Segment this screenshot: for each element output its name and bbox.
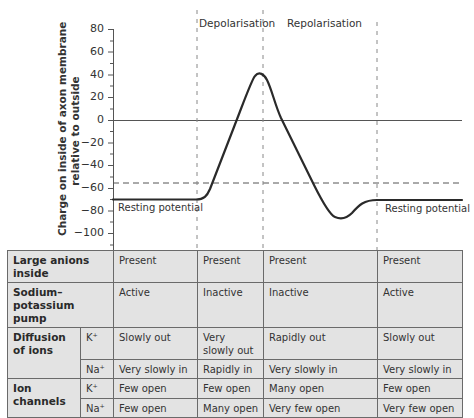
table-cell: Present <box>198 251 264 283</box>
ion-properties-table: Large anions inside Present Present Pres… <box>7 250 463 418</box>
table-cell: Slowly out <box>114 328 198 360</box>
ion-label-na: Na⁺ <box>81 360 114 379</box>
phase-label-depolarisation: Depolarisation <box>199 17 275 29</box>
table-cell: Very slowly in <box>264 360 378 379</box>
table-cell: Few open <box>114 379 198 399</box>
table-cell: Inactive <box>264 283 378 328</box>
table-cell: Very few open <box>378 399 463 418</box>
table-cell: Rapidly in <box>198 360 264 379</box>
table-cell: Very slowly in <box>114 360 198 379</box>
table-cell: Active <box>114 283 198 328</box>
table-cell: Very slowly in <box>378 360 463 379</box>
table-cell: Active <box>378 283 463 328</box>
resting-potential-label-left: Resting potential <box>118 202 203 213</box>
resting-potential-label-right: Resting potential <box>385 203 470 214</box>
table-cell: Few open <box>198 379 264 399</box>
row-label: Sodium–potassium pump <box>8 283 114 328</box>
y-axis-title-line-1: Charge on inside of axon membrane <box>56 26 69 236</box>
y-axis-title-line-2: relative to outside <box>69 26 82 236</box>
table-row-diffusion-k: Diffusion of ions K⁺ Slowly out Very slo… <box>8 328 463 360</box>
table-row-large-anions: Large anions inside Present Present Pres… <box>8 251 463 283</box>
row-label: Diffusion of ions <box>8 328 81 379</box>
table-row-ion-channels-k: Ion channels K⁺ Few open Few open Many o… <box>8 379 463 399</box>
phase-label-repolarisation: Repolarisation <box>287 17 362 29</box>
table-cell: Many open <box>264 379 378 399</box>
table-cell: Present <box>264 251 378 283</box>
table-cell: Very few open <box>264 399 378 418</box>
table-cell: Few open <box>114 399 198 418</box>
membrane-potential-curve <box>113 73 462 218</box>
table-cell: Very slowly out <box>198 328 264 360</box>
table-cell: Many open <box>198 399 264 418</box>
table-row-sodium-potassium-pump: Sodium–potassium pump Active Inactive In… <box>8 283 463 328</box>
table-cell: Present <box>114 251 198 283</box>
ion-label-k: K⁺ <box>81 328 114 360</box>
row-label: Ion channels <box>8 379 81 418</box>
table-cell: Present <box>378 251 463 283</box>
table-cell: Few open <box>378 379 463 399</box>
ion-label-k: K⁺ <box>81 379 114 399</box>
table-cell: Slowly out <box>378 328 463 360</box>
y-axis-title: Charge on inside of axon membrane relati… <box>56 26 82 236</box>
table-cell: Inactive <box>198 283 264 328</box>
ion-label-na: Na⁺ <box>81 399 114 418</box>
table-cell: Rapidly out <box>264 328 378 360</box>
row-label: Large anions inside <box>8 251 114 283</box>
